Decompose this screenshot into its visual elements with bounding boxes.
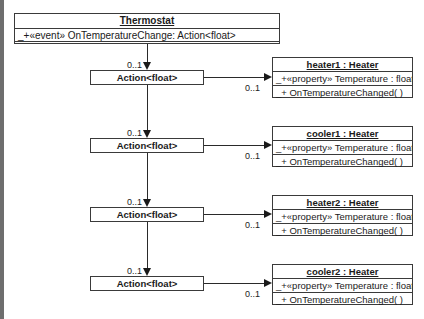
action-delegate-2[interactable]: Action<float>	[90, 138, 204, 153]
instance-name: heater2 : Heater	[273, 196, 412, 209]
multiplicity-label: 0..1	[245, 151, 260, 161]
action-delegate-3[interactable]: Action<float>	[90, 207, 204, 222]
connector-action2-to-cooler1	[204, 145, 266, 146]
arrow-right-icon	[264, 141, 272, 149]
connector-action1-to-action2	[147, 84, 148, 130]
connector-action3-to-heater2	[204, 214, 266, 215]
instance-cooler1[interactable]: cooler1 : Heater _+«property» Temperatur…	[272, 126, 413, 167]
instance-name: cooler2 : Heater	[273, 265, 412, 278]
arrow-right-icon	[264, 73, 272, 81]
thermostat-event: _+«event» OnTemperatureChange: Action<fl…	[15, 28, 279, 43]
multiplicity-label: 0..1	[245, 83, 260, 93]
action-delegate-4[interactable]: Action<float>	[90, 276, 204, 291]
instance-cooler2[interactable]: cooler2 : Heater _+«property» Temperatur…	[272, 264, 413, 305]
instance-method: _+ OnTemperatureChanged( )	[273, 292, 412, 306]
instance-attribute: _+«property» Temperature : float	[273, 71, 412, 85]
instance-method: _+ OnTemperatureChanged( )	[273, 223, 412, 237]
instance-name: heater1 : Heater	[273, 58, 412, 71]
instance-heater2[interactable]: heater2 : Heater _+«property» Temperatur…	[272, 195, 413, 236]
instance-attribute: _+«property» Temperature : float	[273, 140, 412, 154]
instance-attribute: _+«property» Temperature : float	[273, 209, 412, 223]
connector-action1-to-heater1	[204, 77, 266, 78]
instance-attribute: _+«property» Temperature : float	[273, 278, 412, 292]
multiplicity-label: 0..1	[127, 266, 142, 276]
instance-heater1[interactable]: heater1 : Heater _+«property» Temperatur…	[272, 57, 413, 98]
multiplicity-label: 0..1	[127, 128, 142, 138]
connector-action3-to-action4	[147, 221, 148, 268]
instance-method: _+ OnTemperatureChanged( )	[273, 85, 412, 99]
thermostat-class[interactable]: Thermostat _+«event» OnTemperatureChange…	[14, 13, 280, 44]
arrow-right-icon	[264, 210, 272, 218]
arrow-down-icon	[143, 62, 151, 70]
connector-action4-to-cooler2	[204, 283, 266, 284]
arrow-right-icon	[264, 279, 272, 287]
left-edge-border	[0, 0, 4, 319]
multiplicity-label: 0..1	[127, 60, 142, 70]
arrow-down-icon	[143, 130, 151, 138]
instance-method: _+ OnTemperatureChanged( )	[273, 154, 412, 168]
connector-thermostat-to-action1	[147, 44, 148, 62]
arrow-down-icon	[143, 199, 151, 207]
multiplicity-label: 0..1	[245, 289, 260, 299]
instance-name: cooler1 : Heater	[273, 127, 412, 140]
action-delegate-1[interactable]: Action<float>	[90, 70, 204, 85]
arrow-down-icon	[143, 268, 151, 276]
connector-action2-to-action3	[147, 152, 148, 199]
thermostat-class-name: Thermostat	[15, 14, 279, 28]
multiplicity-label: 0..1	[245, 220, 260, 230]
multiplicity-label: 0..1	[127, 197, 142, 207]
